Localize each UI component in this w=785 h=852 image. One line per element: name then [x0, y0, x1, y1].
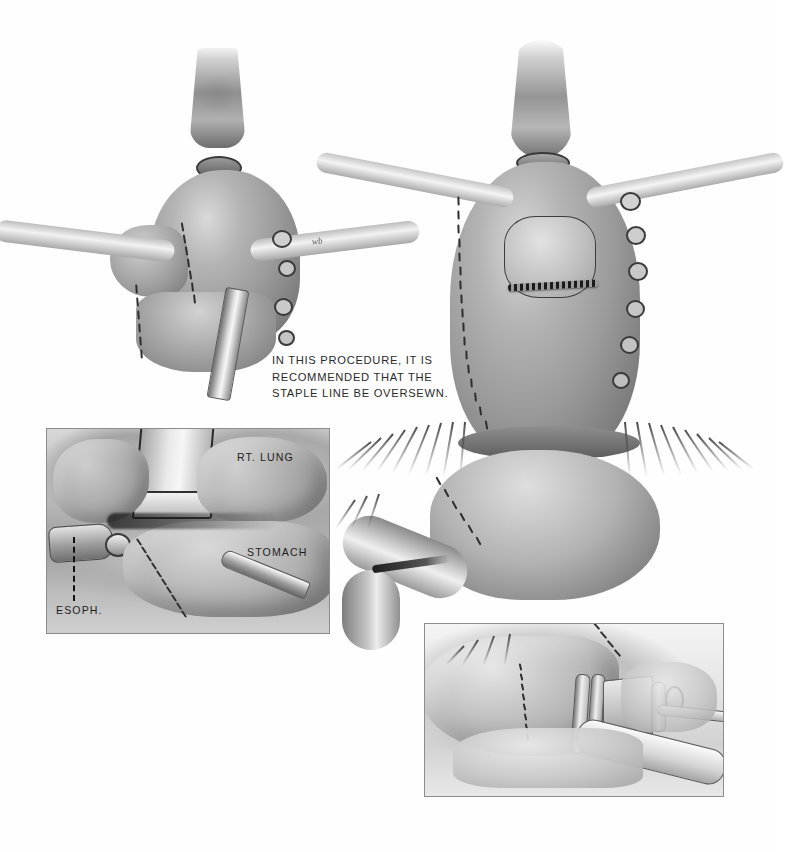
conduit-clip-2 — [626, 226, 646, 245]
omental-tissue-inset — [453, 728, 643, 788]
left-lung-tissue — [53, 439, 149, 523]
label-stomach: STOMACH — [247, 546, 307, 558]
duodenum-descending — [342, 570, 400, 650]
inset-left-image: RT. LUNG STOMACH ESOPH. — [47, 429, 329, 633]
conduit-clip-4 — [626, 300, 645, 318]
conduit-clip-5 — [620, 336, 639, 354]
figure-main-gastric-conduit — [330, 30, 773, 640]
artist-signature: wb — [312, 235, 324, 246]
right-lung-tissue — [197, 437, 327, 523]
esoph-leader-line — [73, 537, 75, 601]
conduit-clip-6 — [612, 372, 630, 389]
inset-panel-intraoperative-view: RT. LUNG STOMACH ESOPH. — [46, 428, 330, 634]
crossing-band-left — [315, 151, 515, 209]
hilar-shadow — [107, 513, 277, 529]
vessel-clip-1 — [272, 230, 292, 248]
omental-tag-distal — [352, 492, 402, 536]
inset-panel-stapler-application — [424, 623, 724, 797]
inset-right-image — [425, 624, 723, 796]
conduit-clip-3 — [628, 262, 648, 281]
vessel-clip-3 — [274, 298, 293, 316]
vessel-clip-4 — [278, 330, 295, 346]
omental-fringe-right — [618, 408, 728, 478]
label-rt-lung: RT. LUNG — [237, 451, 294, 463]
esophagus-shading — [196, 75, 238, 113]
conduit-clip-1 — [620, 192, 641, 211]
vessel-clip-2 — [278, 260, 296, 277]
gastric-body-lower — [136, 292, 276, 372]
omental-fringe-inset — [463, 632, 543, 668]
esophagus-proximal — [510, 40, 572, 158]
omental-tissue-inset-right — [621, 662, 717, 732]
label-esoph: ESOPH. — [56, 604, 103, 616]
crossing-band-right — [585, 151, 785, 209]
figure-upper-left-anastomosis: wb — [0, 30, 380, 370]
